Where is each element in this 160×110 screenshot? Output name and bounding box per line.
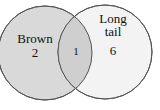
set-label-long-tail: Longtail [84,12,142,39]
set-value-long-tail: 6 [84,44,142,57]
set-label-long-tail-line2: tail [105,24,122,39]
set-label-brown: Brown [6,32,64,45]
set-value-brown: 2 [6,46,64,59]
venn-diagram: Brown 2 Longtail 6 1 [0,0,160,110]
set-value-intersection: 1 [64,46,88,57]
